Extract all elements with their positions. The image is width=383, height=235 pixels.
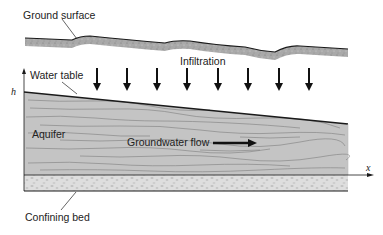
aquifer-diagram: Ground surface Infiltration Water table … [0,0,383,235]
ground-surface-leader [62,19,77,39]
x-axis-label: x [365,162,371,173]
infiltration-arrows [93,68,313,91]
aquifer-label: Aquifer [32,128,66,140]
h-axis-label: h [11,86,16,97]
confining-bed-label: Confining bed [25,211,90,223]
down-arrow-icon [275,68,283,91]
aquifer [24,92,350,175]
down-arrow-icon [214,68,222,91]
groundwater-flow-label: Groundwater flow [127,136,210,148]
down-arrow-icon [123,68,131,91]
h-axis-arrowhead-icon [22,68,26,74]
water-table-leader [62,82,77,94]
down-arrow-icon [93,68,101,91]
down-arrow-icon [244,68,252,91]
down-arrow-icon [183,68,191,91]
water-table-label: Water table [30,69,83,81]
down-arrow-icon [305,68,313,91]
x-axis-arrowhead-icon [367,173,374,177]
down-arrow-icon [153,68,161,91]
infiltration-label: Infiltration [180,55,226,67]
confining-bed-leader [61,192,76,210]
ground-surface-label: Ground surface [23,9,96,21]
confining-bed [24,175,348,191]
